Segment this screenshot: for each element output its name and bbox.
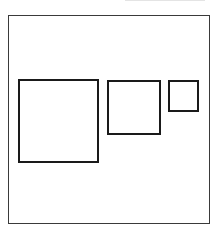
medium-square bbox=[107, 80, 161, 135]
small-square bbox=[168, 80, 199, 112]
large-square bbox=[18, 79, 99, 163]
scan-artifact-line bbox=[125, 0, 205, 1]
